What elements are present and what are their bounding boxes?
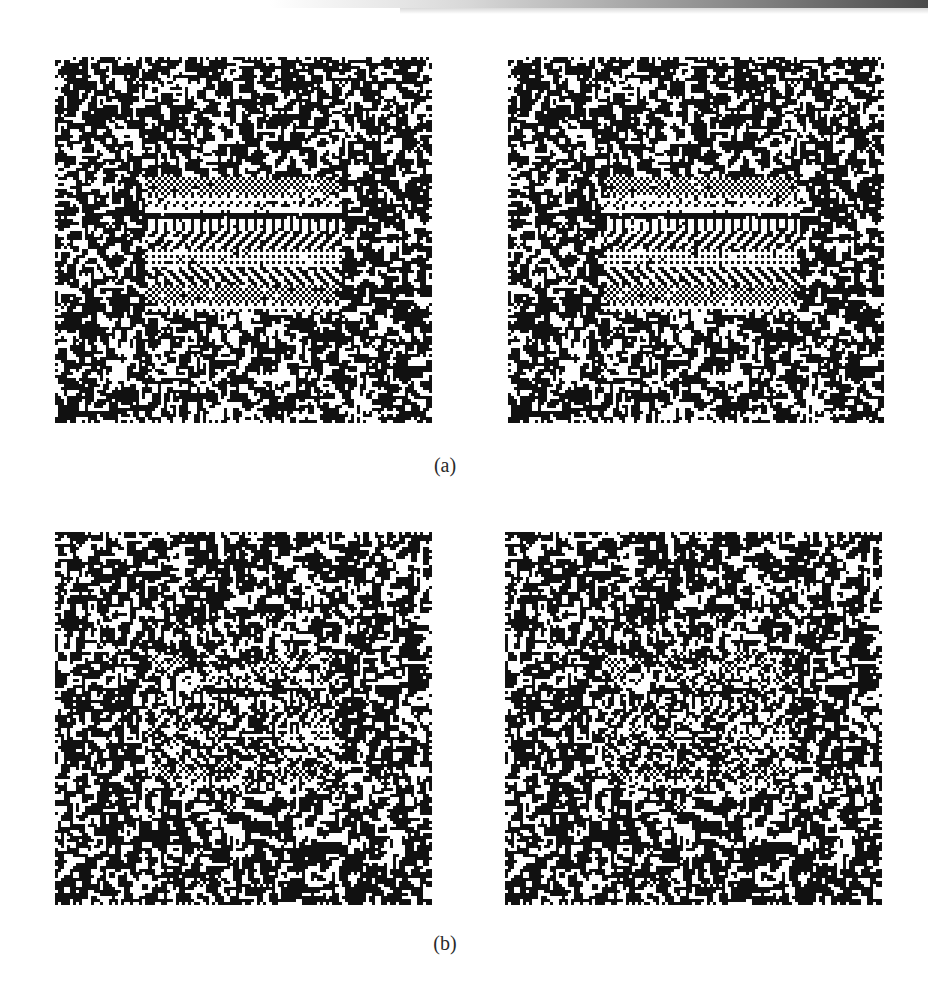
stereogram-b-left — [55, 532, 432, 905]
scan-shadow-fade — [400, 8, 928, 14]
stereogram-a-left — [55, 57, 432, 423]
caption-b: (b) — [405, 932, 485, 955]
scan-shadow — [270, 0, 928, 8]
caption-a: (a) — [405, 454, 485, 477]
stereogram-a-right — [508, 57, 884, 423]
stereogram-b-right — [505, 532, 882, 905]
